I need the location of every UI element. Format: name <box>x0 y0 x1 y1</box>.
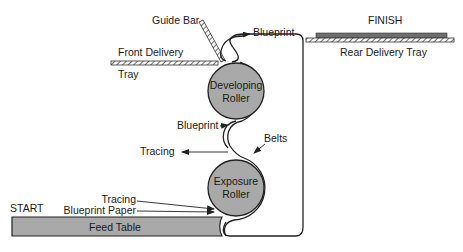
blueprint-paper-arrow <box>137 211 214 212</box>
exposure-roller: Exposure Roller <box>208 160 264 216</box>
tracing-out-label: Tracing <box>140 145 175 157</box>
front-delivery-tray <box>111 61 218 65</box>
tracing-in-arrow <box>137 201 214 209</box>
exposure-roller-label-2: Roller <box>222 188 250 200</box>
blueprint-paper-label: Blueprint Paper <box>64 204 137 216</box>
belts-label: Belts <box>264 132 287 144</box>
exposure-roller-label-1: Exposure <box>214 175 259 187</box>
start-label: START <box>10 202 44 214</box>
feed-table-label: Feed Table <box>89 221 141 233</box>
developing-roller-label-2: Roller <box>222 92 250 104</box>
blueprint-machine-diagram: Developing Roller Exposure Roller Feed T… <box>0 0 463 252</box>
developing-roller-label-1: Developing <box>210 79 263 91</box>
finish-label: FINISH <box>368 14 402 26</box>
rear-delivery-tray <box>306 33 454 42</box>
blueprint-mid-label: Blueprint <box>177 119 219 131</box>
tray-label: Tray <box>118 68 139 80</box>
belts-arrow <box>254 144 265 153</box>
developing-roller: Developing Roller <box>208 63 264 119</box>
feed-table: Feed Table <box>12 217 222 236</box>
front-delivery-label: Front Delivery <box>118 46 184 58</box>
guide-bar-label: Guide Bar <box>152 14 200 26</box>
blueprint-top-label: Blueprint <box>253 26 295 38</box>
rear-delivery-tray-label: Rear Delivery Tray <box>340 46 428 58</box>
